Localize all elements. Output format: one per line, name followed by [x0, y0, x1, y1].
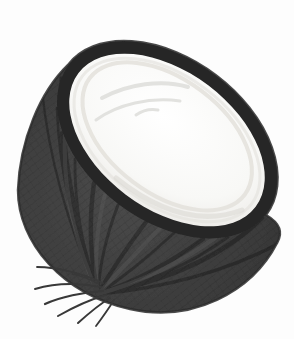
coconut-illustration — [0, 0, 294, 339]
illustration-canvas — [0, 0, 294, 339]
coconut-group — [18, 10, 294, 326]
